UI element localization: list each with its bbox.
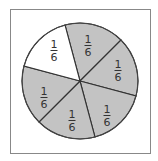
fraction-denominator: 6 bbox=[41, 98, 48, 111]
fraction-numerator: 1 bbox=[41, 85, 48, 98]
fraction-denominator: 6 bbox=[51, 51, 58, 64]
fraction-circle-diagram: 161616161616 bbox=[0, 0, 158, 161]
fraction-numerator: 1 bbox=[85, 33, 92, 46]
fraction-label: 16 bbox=[115, 58, 122, 84]
fraction-denominator: 6 bbox=[85, 46, 92, 59]
fraction-numerator: 1 bbox=[69, 108, 76, 121]
fraction-denominator: 6 bbox=[104, 116, 111, 129]
fraction-numerator: 1 bbox=[115, 58, 122, 71]
fraction-denominator: 6 bbox=[115, 71, 122, 84]
fraction-label: 16 bbox=[85, 33, 92, 59]
fraction-label: 16 bbox=[69, 108, 76, 134]
fraction-numerator: 1 bbox=[104, 103, 111, 116]
fraction-denominator: 6 bbox=[69, 121, 76, 134]
fraction-label: 16 bbox=[41, 85, 48, 111]
fraction-numerator: 1 bbox=[51, 38, 58, 51]
fraction-label: 16 bbox=[104, 103, 111, 129]
fraction-label: 16 bbox=[51, 38, 58, 64]
